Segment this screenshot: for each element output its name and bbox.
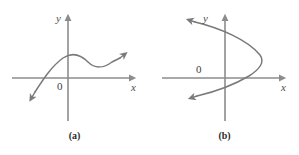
curve-arrow-start — [31, 92, 35, 99]
y-axis-label: y — [203, 13, 208, 24]
sideways-parabola-curve — [195, 22, 262, 96]
x-axis-label: x — [131, 82, 136, 93]
origin-label: 0 — [57, 81, 63, 92]
cubic-curve — [35, 55, 120, 92]
x-axis-label: x — [281, 82, 286, 93]
panel-caption: (b) — [150, 131, 299, 141]
vertical-line-test-figure: y x 0 (a) — [0, 0, 299, 155]
curve-arrow-end — [120, 54, 125, 58]
panel-caption: (a) — [0, 131, 149, 141]
y-axis-label: y — [56, 13, 61, 24]
curve-arrow-end — [191, 96, 197, 98]
curve-arrow-start — [189, 20, 195, 22]
origin-label: 0 — [196, 64, 202, 75]
panel-b: y x 0 (b) — [150, 0, 299, 155]
panel-a: y x 0 (a) — [0, 0, 149, 155]
